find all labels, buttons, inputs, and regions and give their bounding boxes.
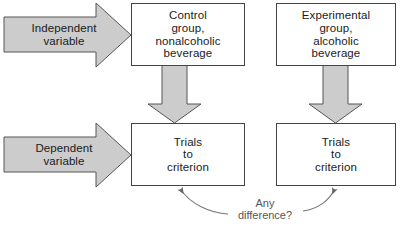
comparison-curve (181, 189, 335, 214)
control-group-box (132, 4, 245, 66)
experimental-group-box (277, 4, 396, 66)
trials-to-criterion-right-box (277, 124, 396, 186)
dependent-variable-arrow-shape (4, 123, 131, 187)
down-arrow-left-shape (148, 64, 201, 123)
down-arrow-left (148, 64, 201, 123)
comparison-curve-left-segment (181, 189, 229, 214)
independent-variable-arrow (4, 3, 131, 67)
independent-variable-arrow-shape (4, 3, 131, 67)
experimental-design-diagram: Independent variable Dependent variable … (0, 0, 405, 230)
down-arrow-right-shape (309, 64, 362, 123)
comparison-curve-right-segment (303, 189, 335, 211)
diagram-canvas (0, 0, 405, 230)
dependent-variable-arrow (4, 123, 131, 187)
down-arrow-right (309, 64, 362, 123)
trials-to-criterion-left-box (132, 124, 245, 186)
